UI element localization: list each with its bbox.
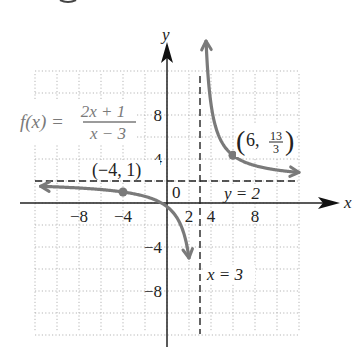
point-2-label-numerator: 13 [270, 129, 282, 143]
point-marker-1 [119, 188, 128, 197]
point-1-label: (−4, 1) [92, 160, 141, 181]
x-tick-label: 2 [185, 207, 194, 226]
x-tick-label: −8 [70, 207, 88, 226]
y-tick-label: 8 [154, 106, 163, 125]
origin-label: 0 [172, 183, 181, 202]
y-tick-label: −8 [144, 282, 162, 301]
function-lhs: f(x) = [20, 111, 64, 133]
cropped-text-fragment [60, 0, 76, 2]
horizontal-asymptote-label: y = 2 [222, 184, 261, 203]
y-tick-label: −4 [144, 238, 163, 257]
function-numerator: 2x + 1 [81, 102, 126, 121]
function-denominator: x − 3 [89, 124, 126, 143]
x-tick-label: 8 [251, 207, 260, 226]
vertical-asymptote-label: x = 3 [206, 265, 243, 284]
x-axis-label: x [343, 193, 352, 212]
x-tick-label: −4 [114, 207, 133, 226]
point-2-label-close-paren: ) [285, 125, 294, 156]
rational-function-graph: x y −8−4248 84−4−8 0 f(x) = 2x + 1 x − 3… [0, 0, 359, 356]
point-2-label-x: 6, [246, 130, 260, 150]
point-2-label: ( 6, 13 3 ) [236, 125, 296, 157]
point-2-label-open-paren: ( [236, 125, 245, 156]
x-tick-labels: −8−4248 [70, 207, 259, 226]
point-2-label-denominator: 3 [273, 142, 279, 156]
x-tick-label: 4 [207, 207, 216, 226]
y-axis-label: y [160, 25, 170, 44]
